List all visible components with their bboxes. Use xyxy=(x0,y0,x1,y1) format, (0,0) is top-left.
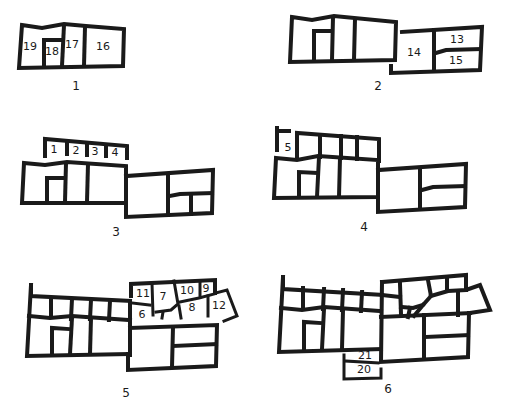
room-label-5: 5 xyxy=(285,141,292,154)
room-label-16: 16 xyxy=(96,40,110,53)
room-label-9: 9 xyxy=(203,282,210,295)
phase-label-6: 6 xyxy=(384,382,392,396)
phase-label-3: 3 xyxy=(112,225,120,239)
room-label-10: 10 xyxy=(180,284,194,297)
room-label-20: 20 xyxy=(357,363,371,376)
room-label-21: 21 xyxy=(358,349,372,362)
room-label-15: 15 xyxy=(449,54,463,67)
phase-plans-figure: 19 18 17 16 1 14 13 15 2 1 2 3 4 xyxy=(0,0,508,416)
room-label-8: 8 xyxy=(189,301,196,314)
room-label-14: 14 xyxy=(407,46,421,59)
room-label-4: 4 xyxy=(112,146,119,159)
room-label-7: 7 xyxy=(160,290,167,303)
phase-label-2: 2 xyxy=(374,79,382,93)
phase-label-4: 4 xyxy=(360,220,368,234)
room-label-17: 17 xyxy=(65,38,79,51)
room-label-2: 2 xyxy=(73,144,80,157)
plan-phase-5: 11 7 10 9 6 8 12 5 xyxy=(27,280,237,400)
plan-phase-2: 14 13 15 2 xyxy=(290,16,482,93)
room-label-18: 18 xyxy=(45,45,59,58)
phase-label-1: 1 xyxy=(72,79,80,93)
plan-phase-4: 5 4 xyxy=(274,128,466,234)
plan-phase-1: 19 18 17 16 1 xyxy=(19,24,124,93)
plan-phase-6: 21 20 6 xyxy=(279,275,490,396)
room-label-12: 12 xyxy=(212,299,226,312)
phase-label-5: 5 xyxy=(122,386,130,400)
room-label-6: 6 xyxy=(139,308,146,321)
room-label-19: 19 xyxy=(23,40,37,53)
room-label-13: 13 xyxy=(450,33,464,46)
room-label-3: 3 xyxy=(92,145,99,158)
room-label-11: 11 xyxy=(136,287,150,300)
room-label-1: 1 xyxy=(51,143,58,156)
plan-phase-3: 1 2 3 4 3 xyxy=(22,139,213,239)
